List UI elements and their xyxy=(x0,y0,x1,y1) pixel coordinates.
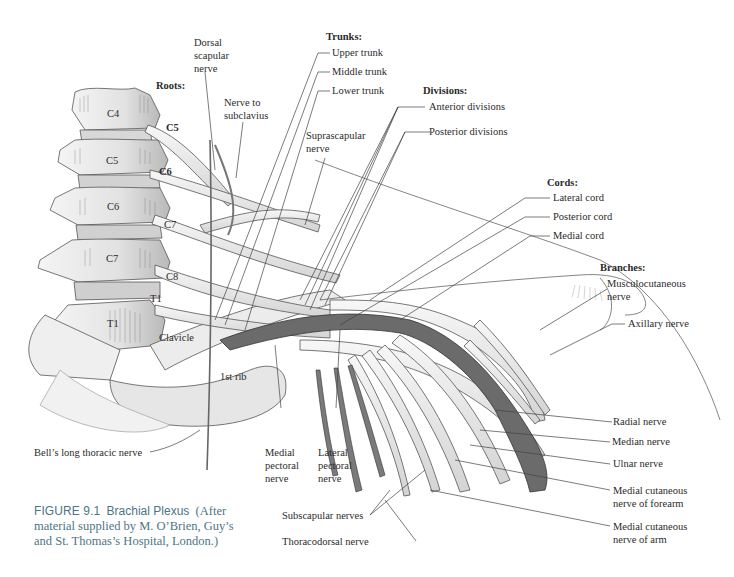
upper-trunk-label: Upper trunk xyxy=(332,46,383,59)
medial-cutaneous-arm-label: Medial cutaneous nerve of arm xyxy=(613,520,687,546)
lower-trunk-label: Lower trunk xyxy=(332,84,384,97)
figure-credit-2: material supplied by M. O’Brien, Guy’s xyxy=(34,519,234,533)
figure-caption: FIGURE 9.1 Brachial Plexus (After materi… xyxy=(34,504,264,549)
long-thoracic-nerve-label: Bell’s long thoracic nerve xyxy=(34,446,142,459)
medial-cutaneous-forearm-label: Medial cutaneous nerve of forearm xyxy=(613,484,687,510)
nerve-to-subclavius-label: Nerve to subclavius xyxy=(224,96,268,122)
roots-heading: Roots: xyxy=(156,79,185,92)
dorsal-scapular-nerve-label: Dorsal scapular nerve xyxy=(194,36,229,75)
brachial-plexus-figure: C4 C5 C6 C7 T1 Clavicle 1st rib Roots: C… xyxy=(0,0,734,577)
vertebra-label-c6: C6 xyxy=(107,200,119,213)
cords-heading: Cords: xyxy=(547,176,578,189)
root-c8: C8 xyxy=(166,270,178,283)
figure-credit-3: and St. Thomas’s Hospital, London.) xyxy=(34,534,218,548)
middle-trunk-label: Middle trunk xyxy=(332,65,387,78)
suprascapular-nerve-label: Suprascapular nerve xyxy=(306,129,365,155)
anterior-divisions-label: Anterior divisions xyxy=(429,100,505,113)
trunks-heading: Trunks: xyxy=(326,30,362,43)
figure-number: FIGURE 9.1 xyxy=(34,504,100,518)
radial-nerve-label: Radial nerve xyxy=(613,415,666,428)
first-rib-label: 1st rib xyxy=(220,370,247,383)
root-c5: C5 xyxy=(166,121,179,134)
vertebra-label-c7: C7 xyxy=(106,252,118,265)
thoracodorsal-nerve-label: Thoracodorsal nerve xyxy=(282,535,369,548)
clavicle-label: Clavicle xyxy=(159,331,194,344)
posterior-divisions-label: Posterior divisions xyxy=(429,125,507,138)
subscapular-nerves-label: Subscapular nerves xyxy=(282,509,363,522)
root-c6: C6 xyxy=(159,165,172,178)
lateral-cord-label: Lateral cord xyxy=(553,191,604,204)
axillary-nerve-label: Axillary nerve xyxy=(628,317,689,330)
figure-credit-1: (After xyxy=(196,504,227,518)
root-c7: C7 xyxy=(164,218,176,231)
divisions-heading: Divisions: xyxy=(423,84,467,97)
vertebra-label-c4: C4 xyxy=(107,107,119,120)
root-t1: T1 xyxy=(150,292,162,305)
vertebra-label-c5: C5 xyxy=(106,154,118,167)
posterior-cord-label: Posterior cord xyxy=(553,210,612,223)
branches-heading: Branches: xyxy=(600,261,646,274)
vertebra-label-t1: T1 xyxy=(107,317,119,330)
figure-title: Brachial Plexus xyxy=(107,504,190,518)
ulnar-nerve-label: Ulnar nerve xyxy=(613,457,663,470)
medial-pectoral-nerve-label: Medial pectoral nerve xyxy=(265,446,299,485)
median-nerve-label: Median nerve xyxy=(612,435,670,448)
lateral-pectoral-nerve-label: Lateral pectoral nerve xyxy=(318,446,352,485)
musculocutaneous-nerve-label: Musculocutaneous nerve xyxy=(607,277,686,303)
medial-cord-label: Medial cord xyxy=(553,229,604,242)
